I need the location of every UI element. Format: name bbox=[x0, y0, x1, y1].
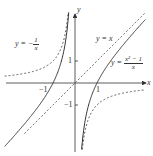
label-neg-reciprocal: y = −1x bbox=[15, 37, 39, 52]
graph-canvas bbox=[0, 0, 153, 156]
y-axis-label: y bbox=[77, 6, 81, 14]
identity-asymptote bbox=[24, 13, 145, 134]
tick-label-x-pos: 1 bbox=[96, 86, 100, 94]
x-axis-label: x bbox=[147, 79, 151, 87]
tick-label-y-pos: 1 bbox=[68, 57, 72, 65]
main-function-curve bbox=[5, 12, 69, 146]
label-main-function: y = x² − 1x bbox=[111, 56, 143, 71]
tick-label-y-neg: −1 bbox=[64, 101, 73, 109]
neg-reciprocal-curve bbox=[82, 90, 145, 150]
tick-label-x-neg: −1 bbox=[39, 86, 48, 94]
label-identity: y = x bbox=[96, 35, 113, 43]
main-function-curve bbox=[82, 20, 146, 150]
